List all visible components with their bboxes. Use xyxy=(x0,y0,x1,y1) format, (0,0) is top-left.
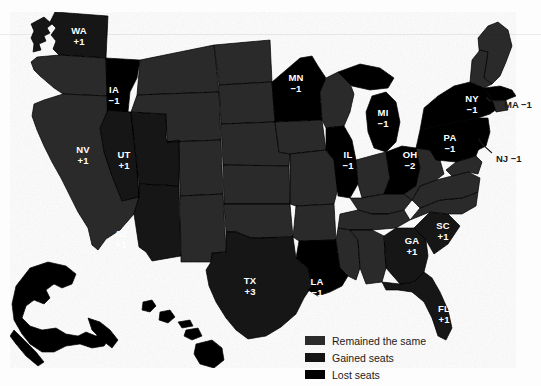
legend-item-gained-seats: Gained seats xyxy=(305,350,485,365)
legend-label-lost-seats: Lost seats xyxy=(332,369,380,381)
state-shape-hi-oahu xyxy=(159,310,175,323)
state-shape-hi-molokai xyxy=(178,320,193,328)
map-figure: WA +1 IA −1 NV +1 UT +1 AZ +1 MN −1 TX +… xyxy=(0,0,541,386)
state-shape-hi-big-island xyxy=(194,340,224,368)
legend-swatch-lost-seats xyxy=(305,370,325,379)
state-shape-wa xyxy=(31,17,52,52)
state-shape-sd xyxy=(219,82,275,124)
legend-swatch-remained-same xyxy=(305,336,325,345)
state-shape-wa-main xyxy=(50,12,108,58)
legend-item-lost-seats: Lost seats xyxy=(305,367,485,382)
state-shape-az xyxy=(134,184,181,261)
legend-label-gained-seats: Gained seats xyxy=(332,352,394,364)
state-shape-mn xyxy=(272,56,326,122)
state-shape-hi-maui xyxy=(184,328,202,340)
us-map-svg xyxy=(0,0,541,386)
map-legend: Remained the same Gained seats Lost seat… xyxy=(305,333,485,384)
state-shape-mt xyxy=(137,45,219,95)
state-shape-fl xyxy=(382,272,452,340)
legend-item-remained-same: Remained the same xyxy=(305,333,485,348)
state-shape-ak xyxy=(12,262,110,352)
state-shape-hi-kauai xyxy=(142,300,156,312)
state-shape-ar xyxy=(293,204,336,241)
state-shape-ia-real xyxy=(275,120,326,154)
state-shape-nm xyxy=(180,194,226,262)
state-shape-or xyxy=(31,55,107,96)
legend-swatch-gained-seats xyxy=(305,353,325,362)
legend-label-remained-same: Remained the same xyxy=(332,335,426,347)
state-shape-ks xyxy=(223,165,290,204)
state-shape-mo xyxy=(290,150,338,206)
state-shape-nd xyxy=(214,40,272,85)
state-shape-mi xyxy=(366,92,400,152)
